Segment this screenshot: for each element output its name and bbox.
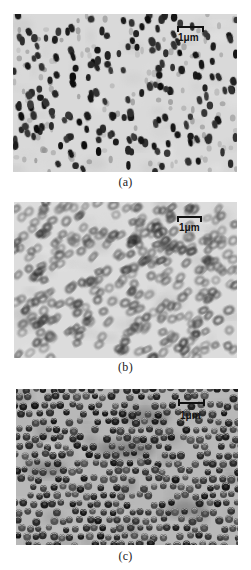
panel-caption-c: (c): [0, 549, 251, 563]
panel-caption-b: (b): [0, 360, 251, 374]
micrograph-image-b: [14, 202, 237, 358]
micrograph-panel-b: [14, 202, 237, 358]
micrograph-panel-a: [13, 14, 237, 172]
micrograph-image-a: [13, 14, 237, 172]
micrograph-panel-c: [16, 389, 238, 545]
micrograph-image-c: [16, 389, 238, 545]
panel-caption-a: (a): [0, 175, 251, 189]
